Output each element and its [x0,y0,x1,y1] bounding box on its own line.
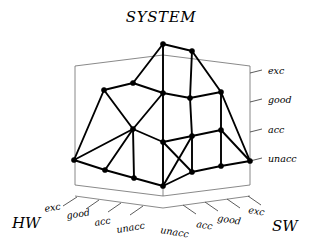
axis-floor-left-edge [75,185,163,196]
hw-axis-label: HW [11,214,42,232]
hw-tick-unacc [130,206,143,215]
mesh-node [101,87,106,92]
system-tick-label-good: good [268,94,292,105]
mesh-edge [133,83,221,98]
mesh-node [131,175,136,180]
mesh-node [71,157,76,162]
surface-plot-figure: SYSTEM exc good acc unacc HW exc good ac… [0,0,322,242]
mesh-node [189,133,194,138]
sw-tick-label-acc: acc [196,218,214,232]
hw-tick-acc [108,203,121,212]
mesh-edge [190,98,192,136]
mesh-node [189,48,194,53]
system-tick-label-exc: exc [268,65,285,76]
mesh-node [247,158,252,163]
mesh-edge [74,129,133,160]
sw-tick-label-unacc: unacc [160,224,191,239]
mesh-node [189,169,194,174]
mesh-edge [221,92,250,161]
mesh-edge [133,93,163,129]
system-tick-label-acc: acc [268,124,285,135]
system-tick-acc [250,129,262,132]
mesh-node [160,41,165,46]
mesh-node [218,127,223,132]
hw-tick-exc [63,197,77,206]
mesh-edge [74,44,163,160]
system-axis-ticks [250,70,262,161]
hw-tick-label-good: good [66,206,91,221]
mesh-node [160,139,165,144]
plot-canvas: SYSTEM exc good acc unacc HW exc good ac… [0,0,322,242]
surface-mesh [71,41,252,188]
sw-tick-acc [205,202,218,211]
mesh-edge [133,129,134,178]
mesh-node [130,126,135,131]
mesh-edge [221,130,250,161]
hw-tick-label-acc: acc [94,214,112,228]
axis-top-right-edge [163,55,250,66]
mesh-node [218,89,223,94]
mesh-node [160,90,165,95]
mesh-edge [74,160,250,186]
mesh-node [187,95,192,100]
mesh-node [102,167,107,172]
system-tick-good [250,99,262,102]
system-tick-exc [250,70,262,73]
mesh-edge [105,129,133,170]
hw-tick-label-exc: exc [44,200,62,214]
mesh-node [130,80,135,85]
chart-title: SYSTEM [126,8,196,26]
mesh-node [160,183,165,188]
mesh-edge [163,142,192,172]
system-tick-label-unacc: unacc [268,153,297,164]
hw-tick-label-unacc: unacc [116,220,147,235]
sw-axis [163,196,261,214]
sw-tick-good [227,199,240,208]
sw-tick-unacc [183,205,196,214]
axis-floor-right-edge [163,185,250,196]
sw-axis-label: SW [272,217,299,235]
sw-tick-label-exc: exc [248,204,266,218]
mesh-node [218,163,223,168]
sw-tick-label-good: good [217,212,242,227]
